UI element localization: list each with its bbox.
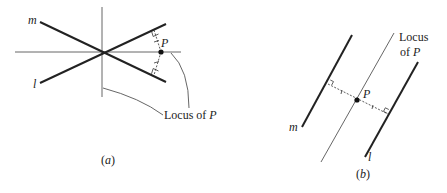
leader-curve-horizontal [171,53,189,108]
tick-mark-right [372,105,373,109]
label-p: P [362,87,371,101]
label-m: m [28,13,37,27]
line-l [365,62,418,157]
line-m [302,35,352,127]
tick-mark-upper [154,41,159,43]
point-p [158,49,163,54]
line-l [40,24,166,83]
label-p: P [160,36,169,50]
locus-label-line2: of P [400,45,421,59]
leader-curve-vertical [103,88,163,115]
caption-a: (a) [101,153,115,167]
point-p [354,97,359,102]
caption-b: (b) [356,167,370,181]
perpendicular-to-m [154,52,161,75]
figure-b: P m l Locus of P (b) [289,30,429,181]
diagram-canvas: m l P Locus of P (a) P m l Locus of P (b… [0,0,447,193]
label-m: m [289,120,298,134]
locus-label: Locus of P [164,108,217,122]
right-angle-mark-m [330,80,333,85]
locus-label-line1: Locus [399,30,429,44]
figure-a: m l P Locus of P (a) [15,7,217,167]
label-l: l [33,77,37,91]
label-l: l [368,150,372,164]
